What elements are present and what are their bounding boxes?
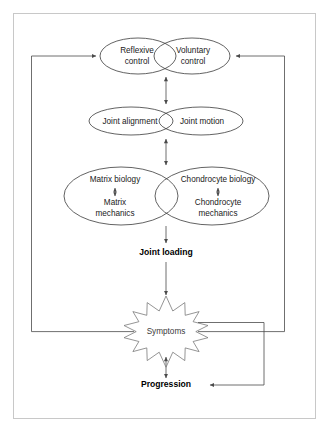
symptoms-node[interactable]: Symptoms [124, 296, 208, 367]
chondrocyte-mechanics-label-line1: Chondrocyte [195, 198, 242, 207]
reflexive-control-label-line1: Reflexive [120, 46, 154, 55]
joint-loading-label: Joint loading [139, 247, 192, 257]
chondrocyte-biology-label: Chondrocyte biology [181, 175, 257, 184]
matrix-mechanics-label-line2: mechanics [95, 209, 134, 218]
symptoms-label: Symptoms [147, 327, 186, 336]
diagram-canvas: Reflexive control Voluntary control Join… [0, 0, 330, 433]
figure-root: Reflexive control Voluntary control Join… [0, 0, 330, 433]
symptoms-to-voluntary-control-feedback [198, 56, 285, 332]
progression-label: Progression [141, 379, 191, 389]
joint-alignment-label: Joint alignment [102, 117, 158, 126]
chondrocyte-mechanics-label-line2: mechanics [198, 209, 237, 218]
voluntary-control-ellipse[interactable] [154, 38, 230, 74]
symptoms-to-reflexive-control-feedback [32, 56, 135, 332]
reflexive-control-label-line2: control [125, 57, 150, 66]
control-row: Reflexive control Voluntary control [100, 38, 230, 74]
joint-motion-label: Joint motion [180, 117, 225, 126]
biology-row: Matrix biology Matrix mechanics Chondroc… [64, 167, 269, 225]
joint-row: Joint alignment Joint motion [89, 107, 243, 135]
matrix-mechanics-label-line1: Matrix [104, 198, 126, 207]
matrix-biology-label: Matrix biology [90, 175, 141, 184]
voluntary-control-label-line2: control [181, 57, 206, 66]
voluntary-control-label-line1: Voluntary [176, 46, 211, 55]
